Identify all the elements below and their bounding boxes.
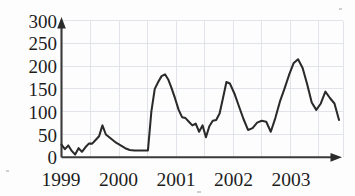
y-tick-label-0: 0: [48, 147, 58, 168]
x-tick-label-2002: 2002: [214, 169, 253, 190]
y-tick-label-50: 50: [38, 125, 57, 146]
y-tick-label-250: 250: [29, 33, 58, 54]
y-tick-label-300: 300: [29, 11, 58, 32]
x-tick-label-2000: 2000: [99, 169, 138, 190]
x-tick-label-2001: 2001: [157, 169, 196, 190]
x-tick-label-2003: 2003: [272, 169, 311, 190]
x-tick-label-1999: 1999: [42, 169, 81, 190]
line-chart: 300 250 200 150 100 50 0 1999 2000 2001 …: [0, 0, 355, 196]
chart-page: 300 250 200 150 100 50 0 1999 2000 2001 …: [0, 0, 355, 196]
y-tick-label-150: 150: [29, 79, 58, 100]
y-tick-label-200: 200: [29, 56, 58, 77]
y-tick-label-100: 100: [29, 102, 58, 123]
